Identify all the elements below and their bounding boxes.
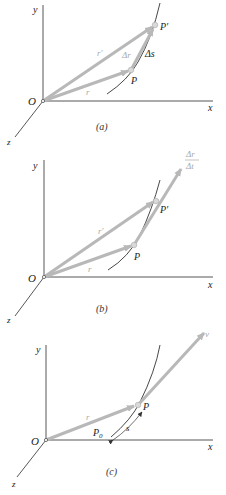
y-axis-label: y (32, 160, 38, 171)
s-label: s (126, 423, 130, 433)
p-label: P (142, 401, 149, 412)
caption-b: (b) (96, 303, 108, 315)
panel-a: y x z O r r′ Δr Δs P P′ (a) (6, 3, 213, 147)
r-label: r (88, 264, 92, 274)
origin-label: O (31, 435, 39, 447)
vector-r (46, 406, 134, 440)
z-axis-label: z (6, 315, 11, 325)
vector-v (138, 333, 204, 405)
p-label: P (130, 75, 137, 86)
caption-a: (a) (96, 121, 108, 133)
origin-point (41, 99, 44, 102)
delta-s-label: Δs (144, 48, 155, 59)
vector-delta-r-over-delta-t (134, 169, 181, 245)
ratio-denominator: Δt (185, 161, 194, 171)
z-axis-label: z (6, 137, 11, 147)
p0-subscript: 0 (99, 432, 103, 440)
p0-label-main: P (92, 427, 99, 438)
origin-point (42, 275, 45, 278)
panel-c: y x z O r v P P0 s (c) (11, 329, 213, 489)
delta-r-label: Δr (121, 50, 131, 60)
x-axis-label: x (207, 102, 213, 113)
y-axis-label: y (35, 344, 41, 355)
p0-label: P0 (92, 427, 103, 440)
y-axis-label: y (32, 4, 38, 15)
r-label: r (86, 87, 90, 97)
p-label: P (133, 251, 140, 262)
panel-b: y x z O r r′ P P′ Δr Δt (b) (6, 149, 213, 325)
z-axis-label: z (11, 479, 16, 489)
origin-label: O (28, 272, 36, 284)
origin-label: O (28, 95, 36, 107)
r-label: r (86, 412, 90, 422)
p-prime-label: P′ (159, 204, 169, 215)
x-axis-label: x (207, 441, 213, 452)
p-prime-label: P′ (159, 21, 169, 32)
v-label: v (205, 329, 209, 339)
ratio-label: Δr Δt (185, 149, 199, 171)
ratio-numerator: Δr (185, 149, 195, 159)
point-p (135, 402, 141, 408)
kinematics-figure: y x z O r r′ Δr Δs P P′ (a) y x z O r (0, 0, 226, 495)
x-axis-label: x (207, 279, 213, 290)
point-p-prime (152, 22, 158, 28)
point-p (131, 242, 137, 248)
r-prime-label: r′ (97, 48, 104, 58)
origin-point (44, 438, 47, 441)
point-p-prime (153, 198, 159, 204)
caption-c: (c) (106, 466, 118, 478)
point-p (128, 67, 134, 73)
